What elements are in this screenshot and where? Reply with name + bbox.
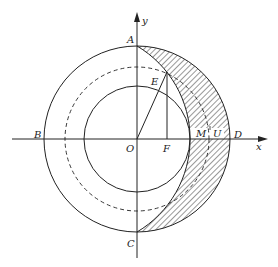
label-x-axis: x xyxy=(256,141,262,152)
label-point-o: O xyxy=(126,143,134,154)
label-point-m: M xyxy=(195,128,207,139)
y-axis-arrow-icon xyxy=(134,12,140,22)
geometry-diagram: y x A B C D E F M U O xyxy=(0,0,278,267)
label-point-b: B xyxy=(33,129,41,140)
label-point-c: C xyxy=(127,238,135,249)
label-point-u: U xyxy=(213,128,222,139)
label-y-axis: y xyxy=(141,15,148,26)
label-point-f: F xyxy=(162,143,171,154)
label-point-e: E xyxy=(150,76,159,87)
label-point-a: A xyxy=(126,34,134,45)
label-point-d: D xyxy=(233,129,242,140)
